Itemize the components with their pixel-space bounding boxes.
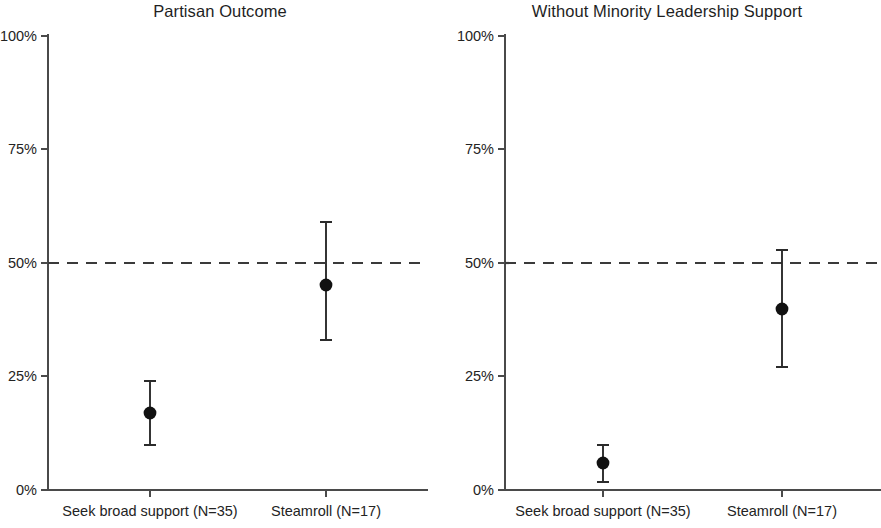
axis-lines <box>505 34 881 490</box>
data-point-steamroll <box>320 222 333 340</box>
y-tick-marks <box>41 36 48 490</box>
y-tick-label-100: 100% <box>457 28 494 44</box>
y-tick-label-50: 50% <box>8 255 37 271</box>
data-point-seek-broad-support <box>597 445 610 482</box>
x-tick-label-seek-broad-support: Seek broad support (N=35) <box>62 503 237 519</box>
x-tick-marks <box>150 490 326 497</box>
panel-without-minority-leadership-support: Without Minority Leadership Support 100%… <box>441 0 881 528</box>
plot-area-left: 100% 75% 50% 25% 0% <box>0 0 440 528</box>
panel-partisan-outcome: Partisan Outcome 100% 75% 50% 25% 0% <box>0 0 440 528</box>
data-point-seek-broad-support <box>144 381 157 445</box>
y-tick-label-50: 50% <box>465 255 494 271</box>
y-tick-label-0: 0% <box>473 482 494 498</box>
x-tick-label-steamroll: Steamroll (N=17) <box>727 503 837 519</box>
y-tick-label-0: 0% <box>16 482 37 498</box>
x-tick-label-seek-broad-support: Seek broad support (N=35) <box>515 503 690 519</box>
figure-canvas: Partisan Outcome 100% 75% 50% 25% 0% <box>0 0 881 528</box>
y-tick-label-100: 100% <box>0 28 37 44</box>
plot-area-right: 100% 75% 50% 25% 0% <box>441 0 881 528</box>
y-tick-label-75: 75% <box>8 141 37 157</box>
x-tick-marks <box>603 490 782 497</box>
y-tick-label-25: 25% <box>8 368 37 384</box>
y-tick-label-75: 75% <box>465 141 494 157</box>
data-point-steamroll <box>776 250 789 367</box>
y-tick-marks <box>498 36 505 490</box>
x-tick-label-steamroll: Steamroll (N=17) <box>271 503 381 519</box>
y-tick-label-25: 25% <box>465 368 494 384</box>
